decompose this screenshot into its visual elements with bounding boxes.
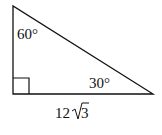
triangle-diagram: 60° 30° 12 3 [0,0,162,135]
base-length-label: 12 3 [55,103,89,121]
angle-label-30: 30° [89,75,110,91]
base-radicand: 3 [81,105,89,121]
angle-label-60: 60° [17,26,38,42]
base-coefficient: 12 [55,105,70,121]
right-triangle [13,6,153,94]
right-angle-marker [13,78,29,94]
